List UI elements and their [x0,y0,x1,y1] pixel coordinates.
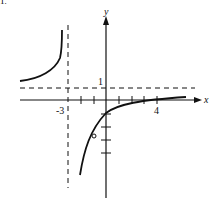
y-axis-arrow-icon [103,16,109,25]
tick-label-x-neg3: -3 [56,105,64,116]
left-branch-curve [20,30,62,81]
x-axis-label: x [203,94,209,105]
hole-point [92,134,96,138]
y-axis-label: y [103,6,109,17]
tick-label-y-1: 1 [98,76,103,87]
tick-label-x-4: 4 [154,105,159,116]
x-axis-arrow-icon [194,97,202,103]
function-graph: x y -3 4 1 [0,0,218,211]
